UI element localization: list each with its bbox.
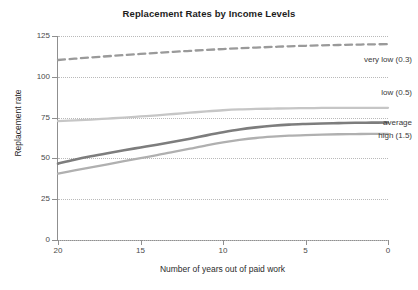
chart-title: Replacement Rates by Income Levels	[0, 8, 418, 19]
series-label-average: average	[383, 118, 412, 127]
x-tick-mark	[223, 240, 224, 245]
y-axis-title: Replacement rate	[13, 53, 23, 193]
y-tick-label: 50	[22, 153, 50, 162]
series-lines-group	[58, 36, 388, 240]
series-line	[58, 108, 388, 121]
y-tick-mark	[52, 199, 57, 200]
y-tick-label: 100	[22, 72, 50, 81]
x-tick-label: 5	[291, 246, 321, 255]
y-tick-label: 0	[22, 235, 50, 244]
x-tick-label: 10	[208, 246, 238, 255]
y-tick-mark	[52, 158, 57, 159]
series-label-very: very low (0.3)	[364, 55, 412, 64]
series-label-low: low (0.5)	[381, 88, 412, 97]
x-tick-label: 20	[43, 246, 73, 255]
series-label-high: high (1.5)	[378, 131, 412, 140]
y-tick-mark	[52, 240, 57, 241]
y-tick-mark	[52, 118, 57, 119]
x-tick-label: 15	[126, 246, 156, 255]
x-tick-label: 0	[373, 246, 403, 255]
x-tick-mark	[388, 240, 389, 245]
chart-container: Replacement Rates by Income Levels 02550…	[0, 0, 418, 290]
y-tick-mark	[52, 77, 57, 78]
series-line	[58, 44, 388, 60]
y-tick-mark	[52, 36, 57, 37]
x-axis-title: Number of years out of paid work	[57, 264, 388, 274]
y-tick-label: 125	[22, 31, 50, 40]
y-tick-label: 75	[22, 113, 50, 122]
x-tick-mark	[141, 240, 142, 245]
y-tick-label: 25	[22, 194, 50, 203]
x-tick-mark	[306, 240, 307, 245]
x-tick-mark	[58, 240, 59, 245]
